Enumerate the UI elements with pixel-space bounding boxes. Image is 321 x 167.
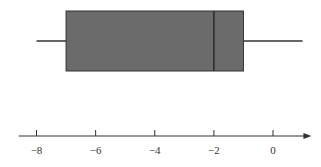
tick-label: −2 bbox=[208, 144, 220, 156]
axis-arrow-icon bbox=[303, 133, 311, 139]
box-plot-chart: −8−6−4−20 bbox=[0, 0, 321, 167]
tick-label: −8 bbox=[31, 144, 43, 156]
tick-label: −6 bbox=[90, 144, 102, 156]
number-line-axis: −8−6−4−20 bbox=[19, 130, 312, 156]
box-plot bbox=[37, 11, 303, 71]
interquartile-box bbox=[66, 11, 243, 71]
tick-label: −4 bbox=[149, 144, 161, 156]
tick-label: 0 bbox=[270, 144, 276, 156]
